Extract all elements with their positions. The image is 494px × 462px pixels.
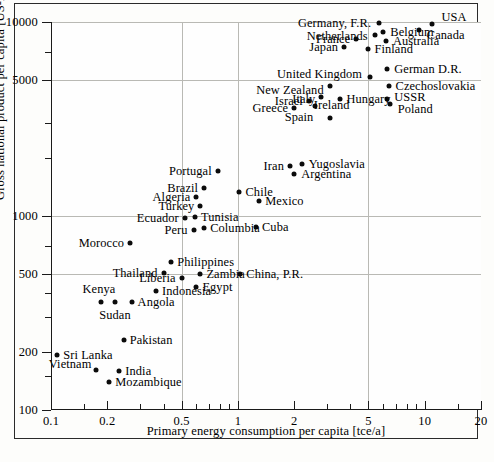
data-point-label: German D.R. [394,63,462,75]
data-point-label: Argentina [301,168,351,180]
data-point [237,189,242,194]
data-point-label: Vietnam [49,358,92,370]
y-tick [42,410,51,411]
data-point-label: Kenya [83,283,116,295]
data-point [215,169,220,174]
data-point [198,203,203,208]
data-point [327,116,332,121]
data-point [366,46,371,51]
x-tick-label: 0.5 [173,414,189,429]
data-point-label: USA [441,11,466,23]
data-point-label: Finland [374,42,413,54]
data-point [182,216,187,221]
data-point [292,171,297,176]
y-tick [42,216,51,217]
y-tick-label: 200 [19,344,38,359]
data-point [377,20,382,25]
data-point [179,275,184,280]
data-point [202,225,207,230]
data-point [98,300,103,305]
x-tick-label: 1 [235,414,241,429]
data-point-label: Sudan [99,309,130,321]
x-axis-line [51,409,481,410]
data-point [154,289,159,294]
x-tick-label: 10 [418,414,431,429]
gridline-horizontal [51,216,481,217]
data-point-label: Morocco [79,236,124,248]
y-tick-label: 500 [19,267,38,282]
data-point-label: Japan [309,41,338,53]
y-tick-label: 1000 [12,209,38,224]
x-tick-label: 5 [365,414,371,429]
data-point [327,83,332,88]
data-point [198,271,203,276]
data-point [191,228,196,233]
data-point [112,300,117,305]
data-point-label: Greece [252,102,288,114]
data-point-label: Iran [264,160,284,172]
data-point [354,36,359,41]
data-point [194,195,199,200]
y-tick [42,22,51,23]
data-point [128,240,133,245]
y-tick [42,352,51,353]
data-point [306,99,311,104]
data-point-label: Pakistan [130,334,173,346]
data-point [121,337,126,342]
data-point [193,215,198,220]
data-point [202,185,207,190]
data-point-label: Liberia [139,272,175,284]
data-point [372,32,377,37]
plot-area: 0.10.20.512510201002005001000500010000 U… [51,22,481,410]
data-point-label: Ireland [314,99,350,111]
x-axis-label: Primary energy consumption per capita [t… [51,424,481,439]
x-tick-label: 0.2 [99,414,115,429]
data-point [94,368,99,373]
y-axis-label: Gross national product per capita [US-Do… [0,0,8,200]
y-axis-line [51,22,52,410]
data-point-label: Germany, F.R. [298,17,371,29]
data-point-label: Hungary [347,93,391,105]
data-point [287,164,292,169]
gridline-horizontal [51,22,481,23]
data-point-label: Cuba [262,221,289,233]
data-point [368,75,373,80]
data-point-label: United Kingdom [277,68,362,80]
data-point [385,67,390,72]
data-point [292,106,297,111]
x-tick-label: 0.1 [43,414,59,429]
data-point [107,379,112,384]
data-point [129,300,134,305]
data-point [117,369,122,374]
data-point-label: Mozambique [115,375,181,387]
x-tick-label: 20 [475,414,488,429]
data-point [257,198,262,203]
data-point [238,272,243,277]
figure-container: Gross national product per capita [US-Do… [0,0,494,462]
data-point-label: Columbia [210,222,260,234]
data-point-label: Poland [398,102,433,114]
y-tick [42,274,51,275]
data-point-label: Angola [138,296,175,308]
data-point [386,83,391,88]
y-tick-label: 100 [19,403,38,418]
y-tick [42,80,51,81]
data-point-label: China, P.R. [246,268,303,280]
y-tick-label: 5000 [12,73,38,88]
data-point-label: Peru [165,224,188,236]
data-point [381,29,386,34]
data-point [342,45,347,50]
x-tick [481,401,482,410]
x-tick-label: 2 [291,414,297,429]
data-point-label: Portugal [169,165,212,177]
data-point [169,259,174,264]
data-point-label: Mexico [265,194,303,206]
y-tick-label: 10000 [6,15,38,30]
data-point-label: Spain [285,111,314,123]
